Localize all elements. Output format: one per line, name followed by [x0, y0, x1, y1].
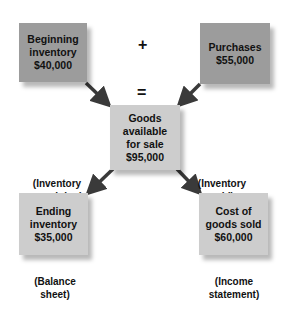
- goods-available-value: $95,000: [126, 151, 164, 164]
- inventory-sold-line-1: (Inventory: [197, 177, 247, 190]
- cogs-label-1: Cost of: [215, 205, 251, 218]
- goods-available-label-1: Goods: [128, 112, 161, 125]
- ending-inventory-value: $35,000: [35, 231, 73, 244]
- beginning-inventory-box: Beginning inventory $40,000: [19, 23, 87, 82]
- income-statement-note: (Income statement): [199, 275, 269, 301]
- goods-available-label-2: available: [123, 125, 167, 138]
- plus-operator: +: [138, 36, 147, 54]
- beginning-inventory-label-2: inventory: [29, 46, 76, 59]
- arrow-goods-to-ending: [89, 169, 113, 192]
- beginning-inventory-value: $40,000: [34, 59, 72, 72]
- arrow-purchases-to-goods: [180, 84, 200, 104]
- beginning-inventory-label-1: Beginning: [27, 33, 78, 46]
- income-statement-line-1: (Income: [199, 275, 269, 288]
- goods-available-label-3: for sale: [126, 138, 163, 151]
- ending-inventory-label-2: inventory: [30, 218, 77, 231]
- cogs-label-2: goods sold: [206, 218, 262, 231]
- ending-inventory-box: Ending inventory $35,000: [19, 193, 88, 255]
- arrow-goods-to-cogs: [177, 169, 199, 192]
- inventory-remaining-line-1: (Inventory: [22, 177, 92, 190]
- balance-sheet-line-1: (Balance: [20, 275, 90, 288]
- balance-sheet-note: (Balance sheet): [20, 275, 90, 301]
- purchases-box: Purchases $55,000: [200, 23, 270, 84]
- cogs-value: $60,000: [215, 231, 253, 244]
- purchases-value: $55,000: [216, 54, 254, 67]
- income-statement-line-2: statement): [199, 288, 269, 301]
- goods-available-box: Goods available for sale $95,000: [110, 105, 180, 170]
- purchases-label: Purchases: [208, 41, 261, 54]
- balance-sheet-line-2: sheet): [20, 288, 90, 301]
- ending-inventory-label-1: Ending: [36, 205, 72, 218]
- arrow-beginning-to-goods: [86, 83, 108, 104]
- equals-operator: =: [137, 84, 146, 102]
- cost-of-goods-sold-box: Cost of goods sold $60,000: [199, 193, 268, 255]
